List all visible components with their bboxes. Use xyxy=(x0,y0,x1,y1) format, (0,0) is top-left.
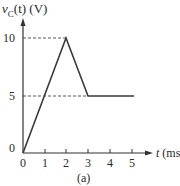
x-axis-arrow-icon xyxy=(145,151,153,156)
x-tick-0: 0 xyxy=(20,157,26,169)
y-axis-label-rest: (t) (V) xyxy=(14,1,48,16)
x-axis-label: t (ms) xyxy=(156,147,180,159)
x-tick-3: 3 xyxy=(85,157,91,169)
x-axis-label-rest: (ms) xyxy=(159,146,180,160)
y-tick-5: 5 xyxy=(9,90,15,102)
x-tick-2: 2 xyxy=(63,157,69,169)
y-tick-10: 10 xyxy=(3,32,15,44)
y-axis-label: vC(t) (V) xyxy=(2,3,47,20)
x-tick-5: 5 xyxy=(129,157,135,169)
vc-waveform xyxy=(23,38,134,153)
figure-caption: (a) xyxy=(77,172,90,184)
y-tick-0: 0 xyxy=(9,142,15,154)
x-tick-4: 4 xyxy=(107,157,113,169)
x-tick-1: 1 xyxy=(42,157,48,169)
